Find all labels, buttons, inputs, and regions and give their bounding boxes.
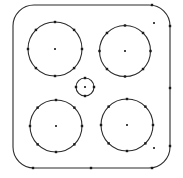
- hole-top-left-node: [35, 29, 37, 31]
- hole-top-right-node: [142, 68, 144, 70]
- hole-bottom-right-node: [152, 124, 154, 126]
- node-right-edge-middle: [169, 87, 171, 89]
- hole-top-right-node: [124, 24, 126, 26]
- node-right-edge-upper: [169, 25, 171, 27]
- hole-top-right-node: [106, 32, 108, 34]
- hole-bottom-right-node: [107, 105, 109, 107]
- hole-top-right-node: [124, 75, 126, 77]
- node-bottom-edge-center: [90, 167, 92, 169]
- hole-bottom-right-node: [100, 124, 102, 126]
- hole-bottom-right-node: [144, 142, 146, 144]
- hole-center-small-node: [84, 77, 86, 79]
- hole-top-left-node: [54, 75, 56, 77]
- hole-bottom-left-node: [73, 106, 75, 108]
- hole-top-left-center-marker: [54, 48, 56, 50]
- hole-top-left-node: [73, 29, 75, 31]
- cad-drawing-canvas[interactable]: [0, 0, 183, 178]
- node-bottom-edge-right: [151, 167, 153, 169]
- hole-top-right-node: [98, 50, 100, 52]
- hole-bottom-left-node: [81, 125, 83, 127]
- hole-center-small-node: [75, 86, 77, 88]
- hole-top-right-node: [106, 68, 108, 70]
- hole-center-small-node: [84, 95, 86, 97]
- point-lower-right-inner: [153, 147, 155, 149]
- hole-bottom-right-node: [107, 142, 109, 144]
- node-right-edge-lower: [169, 145, 171, 147]
- hole-bottom-right-node: [144, 105, 146, 107]
- node-top-right-edge: [151, 4, 153, 6]
- node-bottom-edge-left: [32, 167, 34, 169]
- point-upper-right-inner: [153, 22, 155, 24]
- free-points-layer: [153, 22, 155, 149]
- hole-bottom-left-node: [29, 125, 31, 127]
- hole-bottom-left-node: [55, 151, 57, 153]
- hole-center-small-node: [93, 86, 95, 88]
- hole-bottom-left-node: [36, 106, 38, 108]
- hole-top-right-node: [149, 50, 151, 52]
- hole-top-left-node: [54, 21, 56, 23]
- hole-center-small-center-marker: [84, 86, 86, 88]
- hole-top-left-node: [81, 48, 83, 50]
- hole-bottom-right-center-marker: [126, 124, 128, 126]
- hole-bottom-left-node: [55, 99, 57, 101]
- technical-drawing[interactable]: [0, 0, 183, 178]
- hole-top-right-node: [142, 32, 144, 34]
- hole-bottom-left-node: [36, 143, 38, 145]
- hole-top-left-node: [35, 67, 37, 69]
- hole-bottom-left-center-marker: [55, 125, 57, 127]
- hole-top-left-node: [27, 48, 29, 50]
- hole-bottom-right-node: [126, 98, 128, 100]
- nodes-layer: [27, 4, 171, 169]
- hole-top-right-center-marker: [124, 50, 126, 52]
- hole-bottom-left-node: [73, 143, 75, 145]
- circles-layer: [28, 22, 153, 152]
- hole-bottom-right-node: [126, 150, 128, 152]
- hole-top-left-node: [73, 67, 75, 69]
